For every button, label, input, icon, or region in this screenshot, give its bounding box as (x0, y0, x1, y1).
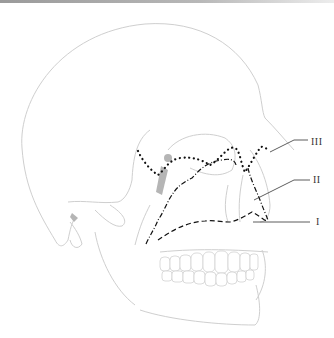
label-le-fort-2: II (313, 174, 321, 185)
teeth (160, 251, 258, 286)
skull-diagram (0, 0, 334, 338)
label-le-fort-3: III (311, 136, 323, 147)
le-fort-1-line (158, 212, 268, 240)
leader-3 (270, 140, 308, 152)
label-le-fort-1: I (316, 216, 320, 227)
shaded-bone (70, 154, 172, 222)
leader-lines (253, 140, 310, 222)
leader-2 (254, 180, 310, 200)
